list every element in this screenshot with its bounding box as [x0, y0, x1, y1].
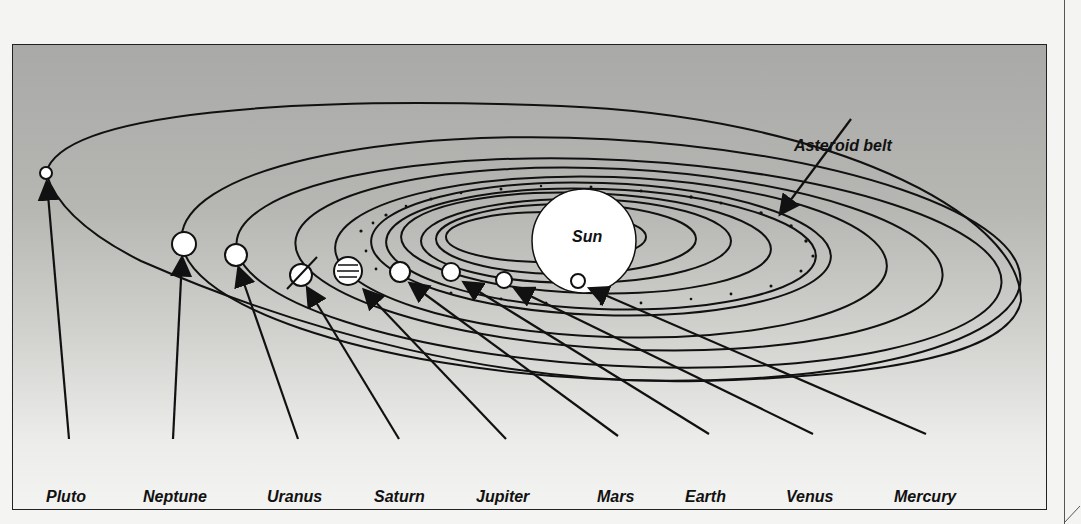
- mars-body: [390, 262, 410, 282]
- planet-label-neptune: Neptune: [143, 488, 207, 506]
- venus-body: [496, 272, 512, 288]
- page-corner-mark: [1063, 500, 1081, 524]
- earth-body: [442, 263, 460, 281]
- orbits-canvas: [13, 45, 1047, 510]
- planet-label-pluto: Pluto: [46, 488, 86, 506]
- planet-label-uranus: Uranus: [267, 488, 322, 506]
- uranus-body: [225, 244, 247, 266]
- mercury-body: [571, 274, 585, 288]
- pluto-body: [40, 167, 52, 179]
- page-edge-line: [1064, 0, 1065, 524]
- asteroid-belt-label: Asteroid belt: [794, 137, 892, 155]
- planet-label-earth: Earth: [685, 488, 726, 506]
- planet-label-saturn: Saturn: [374, 488, 425, 506]
- planet-label-mercury: Mercury: [894, 488, 956, 506]
- planet-label-jupiter: Jupiter: [476, 488, 529, 506]
- label-arrows: [47, 119, 926, 439]
- planet-label-venus: Venus: [786, 488, 833, 506]
- solar-system-diagram: Sun Asteroid belt Pluto Neptune Uranus S…: [12, 44, 1047, 510]
- sun-label: Sun: [572, 228, 602, 246]
- planet-label-mars: Mars: [597, 488, 634, 506]
- neptune-body: [172, 232, 196, 256]
